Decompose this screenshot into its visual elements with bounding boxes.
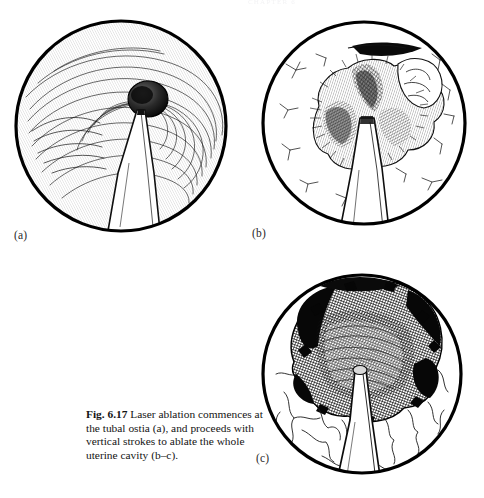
figure-number: Fig. 6.17: [86, 408, 127, 420]
running-head: CHAPTER 6: [248, 0, 458, 7]
tubal-ostium: [128, 81, 168, 117]
panel-label-a: (a): [14, 229, 27, 241]
panel-label-b: (b): [252, 227, 266, 239]
figure-panel-a: (a): [8, 13, 238, 243]
figure-panel-b: (b): [256, 18, 472, 240]
figure-page: CHAPTER 6: [0, 0, 484, 498]
figure-panel-c: (c): [258, 270, 468, 482]
figure-caption: Fig. 6.17 Laser ablation commences at th…: [86, 408, 271, 462]
